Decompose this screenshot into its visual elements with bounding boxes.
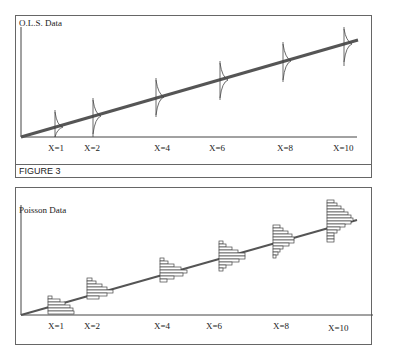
- poisson-tick-x4: X=4: [154, 321, 170, 331]
- ols-tick-x6: X=6: [209, 143, 225, 153]
- ols-tick-x10: X=10: [333, 143, 354, 153]
- poisson-tick-x8: X=8: [273, 321, 289, 331]
- ols-tick-x4: X=4: [154, 143, 170, 153]
- poisson-tick-x1: X=1: [48, 321, 64, 331]
- poisson-tick-x2: X=2: [84, 321, 100, 331]
- poisson-tick-x6: X=6: [206, 321, 222, 331]
- ols-tick-x2: X=2: [84, 143, 100, 153]
- poisson-tick-x10: X=10: [328, 323, 349, 333]
- ols-tick-x8: X=8: [277, 143, 293, 153]
- ols-tick-x1: X=1: [48, 143, 64, 153]
- chart-graphics: [0, 0, 401, 352]
